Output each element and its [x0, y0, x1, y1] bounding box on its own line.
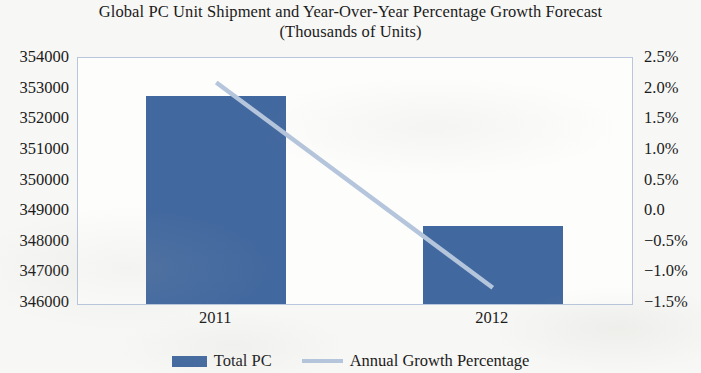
- chart-title-line-1: Global PC Unit Shipment and Year-Over-Ye…: [99, 2, 603, 21]
- chart-figure: Global PC Unit Shipment and Year-Over-Ye…: [0, 0, 701, 373]
- left-axis-tick-6: 348000: [20, 233, 70, 249]
- right-axis-tick-3: 1.0%: [644, 141, 678, 157]
- x-axis-category-labels: 20112012: [77, 308, 633, 332]
- right-axis-tick-2: 1.5%: [644, 110, 678, 126]
- left-axis-tick-5: 349000: [20, 202, 70, 218]
- legend-label-0: Total PC: [214, 352, 272, 370]
- left-axis-tick-3: 351000: [20, 141, 70, 157]
- legend-bar-swatch-icon: [172, 356, 207, 367]
- right-axis-tick-0: 2.5%: [644, 49, 678, 65]
- right-axis-tick-5: 0.0: [644, 202, 665, 218]
- x-axis-label-2012: 2012: [475, 308, 508, 328]
- left-axis-tick-2: 352000: [20, 110, 70, 126]
- left-axis-tick-7: 347000: [20, 263, 70, 279]
- left-axis-tick-labels: 3540003530003520003510003500003490003480…: [2, 57, 74, 305]
- chart-legend: Total PCAnnual Growth Percentage: [0, 349, 701, 373]
- plot-inner: [78, 58, 632, 304]
- right-axis-tick-8: −1.5%: [644, 294, 688, 310]
- x-axis-label-2011: 2011: [199, 308, 231, 328]
- right-axis-tick-labels: 2.5%2.0%1.5%1.0%0.5%0.0−0.5%−1.0%−1.5%: [641, 57, 701, 305]
- right-axis-tick-6: −0.5%: [644, 233, 688, 249]
- growth-line-path: [216, 83, 493, 288]
- left-axis-tick-8: 346000: [20, 294, 70, 310]
- chart-title-line-2: (Thousands of Units): [0, 22, 701, 42]
- legend-item-0[interactable]: Total PC: [172, 352, 272, 370]
- chart-title: Global PC Unit Shipment and Year-Over-Ye…: [0, 2, 701, 42]
- legend-line-swatch-icon: [302, 359, 343, 363]
- right-axis-tick-7: −1.0%: [644, 263, 688, 279]
- legend-label-1: Annual Growth Percentage: [350, 352, 530, 370]
- left-axis-tick-4: 350000: [20, 172, 70, 188]
- annual-growth-percentage-line: [78, 58, 631, 303]
- legend-item-1[interactable]: Annual Growth Percentage: [302, 352, 530, 370]
- right-axis-tick-1: 2.0%: [644, 80, 678, 96]
- left-axis-tick-0: 354000: [20, 49, 70, 65]
- left-axis-tick-1: 353000: [20, 80, 70, 96]
- right-axis-tick-4: 0.5%: [644, 172, 678, 188]
- plot-area: [77, 57, 633, 305]
